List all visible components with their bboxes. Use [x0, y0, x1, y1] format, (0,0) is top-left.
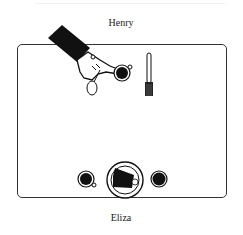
- hand-icon: [48, 25, 120, 80]
- cup-icon: [114, 65, 132, 81]
- bottom-person-label: Eliza: [91, 212, 151, 223]
- cup-icon: [78, 171, 96, 187]
- cup-icon: [151, 171, 167, 187]
- illustration: [0, 0, 243, 235]
- fork-icon: [145, 53, 153, 96]
- plate-with-food-icon: [107, 162, 143, 198]
